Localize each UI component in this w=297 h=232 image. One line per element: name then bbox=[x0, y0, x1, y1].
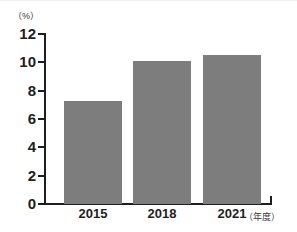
y-axis-tick-label-wrap: 8 bbox=[6, 83, 36, 99]
y-axis-tick-label-wrap: 12 bbox=[6, 26, 36, 42]
y-axis-tick-label: 2 bbox=[10, 168, 36, 183]
y-axis-tick-label: 6 bbox=[10, 111, 36, 126]
y-axis-tick-label-wrap: 4 bbox=[6, 139, 36, 155]
x-axis-title: （年度） bbox=[244, 210, 280, 223]
y-axis-tick-label-wrap: 2 bbox=[6, 168, 36, 184]
y-axis-tick-label-wrap: 0 bbox=[6, 196, 36, 212]
y-axis-tick-label: 8 bbox=[10, 83, 36, 98]
bar bbox=[203, 55, 261, 204]
y-axis-tick-label-wrap: 10 bbox=[6, 54, 36, 70]
bar-chart: （%） 024681012 201520182021 （年度） bbox=[0, 0, 297, 232]
y-axis-unit-label: （%） bbox=[13, 9, 39, 22]
y-axis-tick-label: 12 bbox=[10, 26, 36, 41]
y-axis-tick-label-wrap: 6 bbox=[6, 111, 36, 127]
bar bbox=[133, 61, 191, 204]
bar bbox=[64, 101, 122, 204]
plot-area bbox=[44, 34, 272, 204]
x-axis-category-label: 2015 bbox=[64, 207, 122, 220]
y-axis-tick-label: 4 bbox=[10, 139, 36, 154]
y-axis-tick-label: 10 bbox=[10, 54, 36, 69]
x-axis-category-label: 2018 bbox=[133, 207, 191, 220]
y-axis-tick-label: 0 bbox=[10, 196, 36, 211]
